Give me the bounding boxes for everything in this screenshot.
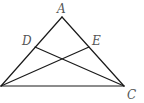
- segment-eb: [1, 47, 89, 86]
- label-d: D: [21, 34, 32, 48]
- label-c: C: [127, 88, 136, 102]
- segment-ac: [62, 17, 124, 86]
- segment-dc: [35, 47, 124, 86]
- label-a: A: [56, 2, 66, 16]
- segment-ab: [1, 17, 62, 86]
- label-e: E: [91, 34, 101, 48]
- triangle-diagram: A D E C: [0, 0, 144, 103]
